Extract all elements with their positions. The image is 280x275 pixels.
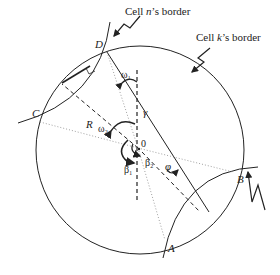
point-d-label: D <box>94 38 103 50</box>
beta2-label: β₂ <box>145 157 154 168</box>
cell-circle <box>36 46 244 254</box>
omega2-arc <box>111 122 135 131</box>
radius-label: R <box>85 118 93 130</box>
cell-n-pointer <box>114 16 140 36</box>
point-c-label: C <box>32 107 40 119</box>
cell-k-pointer <box>192 48 210 72</box>
beta1-label: β₁ <box>124 164 133 175</box>
point-b-label: B <box>237 173 244 185</box>
omega1-label: ω₁ <box>121 69 131 80</box>
radius-line <box>62 84 138 148</box>
cell-k-border-label: Cell k’s border <box>196 31 261 43</box>
dotted-line-d <box>107 52 138 148</box>
point-a-label: A <box>167 242 175 254</box>
geometry-diagram: Cell n’s border Cell k’s border D C B A … <box>0 0 280 275</box>
origin-label: 0 <box>141 138 146 149</box>
phi-label: φ <box>165 160 171 172</box>
gamma-label: γ <box>143 106 148 118</box>
cell-k-border-arc <box>163 167 258 258</box>
omega2-label: ω₂ <box>98 123 108 134</box>
cell-n-border-label: Cell n’s border <box>125 5 191 17</box>
cell-b-pointer <box>248 172 265 210</box>
center-point <box>138 148 140 150</box>
